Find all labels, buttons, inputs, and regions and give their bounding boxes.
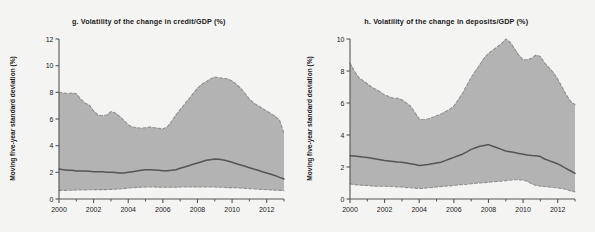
y-tick-label: 2 (50, 169, 54, 176)
panel-h-plot: 02468102000200220042006200820102012 (298, 0, 595, 232)
y-tick-label: 4 (340, 132, 344, 139)
x-tick-label: 2010 (515, 206, 531, 213)
panel-g-plot: 0246810122000200220042006200820102012 (0, 0, 297, 232)
x-tick-label: 2006 (446, 206, 462, 213)
y-tick-label: 0 (50, 196, 54, 203)
y-tick-label: 10 (46, 62, 54, 69)
y-tick-label: 0 (340, 196, 344, 203)
confidence-band (59, 77, 284, 191)
x-tick-label: 2008 (480, 206, 496, 213)
x-tick-label: 2010 (224, 206, 240, 213)
figure-container: g. Volatility of the change in credit/GD… (0, 0, 595, 232)
x-tick-label: 2004 (120, 206, 136, 213)
confidence-band (350, 39, 575, 192)
y-tick-label: 4 (50, 142, 54, 149)
x-tick-label: 2012 (259, 206, 275, 213)
x-tick-label: 2012 (549, 206, 565, 213)
x-tick-label: 2000 (51, 206, 67, 213)
panel-h: h. Volatility of the change in deposits/… (298, 0, 595, 232)
panel-g: g. Volatility of the change in credit/GD… (0, 0, 298, 232)
y-tick-label: 10 (336, 36, 344, 43)
x-tick-label: 2000 (342, 206, 358, 213)
x-tick-label: 2006 (155, 206, 171, 213)
y-tick-label: 2 (340, 164, 344, 171)
x-tick-label: 2002 (376, 206, 392, 213)
y-tick-label: 6 (50, 116, 54, 123)
x-tick-label: 2008 (190, 206, 206, 213)
y-tick-label: 6 (340, 100, 344, 107)
y-tick-label: 8 (50, 89, 54, 96)
y-tick-label: 12 (46, 36, 54, 43)
x-tick-label: 2004 (411, 206, 427, 213)
y-tick-label: 8 (340, 68, 344, 75)
x-tick-label: 2002 (86, 206, 102, 213)
